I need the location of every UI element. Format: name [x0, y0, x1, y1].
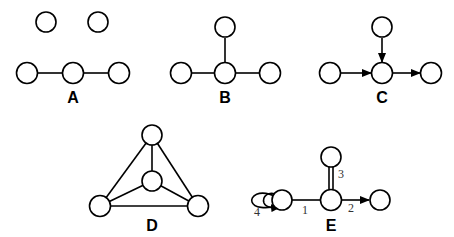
edge-label-4: 4 — [254, 205, 260, 219]
node — [63, 63, 84, 84]
node — [372, 17, 392, 37]
node — [215, 17, 235, 37]
panel-a: A — [17, 12, 130, 106]
panel-d: D — [90, 125, 209, 234]
node — [321, 190, 342, 211]
node — [370, 190, 390, 210]
node — [421, 63, 442, 84]
node — [142, 125, 162, 145]
node — [215, 63, 236, 84]
panel-c: C — [320, 17, 442, 106]
edge-label-3: 3 — [338, 167, 344, 181]
node — [188, 196, 209, 217]
panel-label-c: C — [376, 89, 388, 106]
edge — [152, 135, 198, 206]
panel-e: 1 2 3 4 E — [252, 147, 390, 234]
panel-label-b: B — [219, 89, 231, 106]
node — [17, 63, 38, 84]
panel-label-e: E — [326, 217, 337, 234]
node — [109, 63, 130, 84]
node — [320, 63, 341, 84]
panel-label-d: D — [146, 217, 158, 234]
node — [36, 12, 56, 32]
edge-label-1: 1 — [302, 203, 308, 217]
panel-b: B — [171, 17, 281, 106]
node — [372, 63, 393, 84]
panel-label-a: A — [67, 89, 79, 106]
edge-label-2: 2 — [348, 201, 354, 215]
node — [260, 63, 281, 84]
node — [142, 171, 162, 191]
node — [272, 190, 292, 210]
edge — [100, 135, 152, 206]
graph-types-diagram: A B C D — [0, 0, 454, 237]
node — [321, 147, 341, 167]
node — [88, 12, 108, 32]
node — [90, 196, 111, 217]
node — [171, 63, 192, 84]
